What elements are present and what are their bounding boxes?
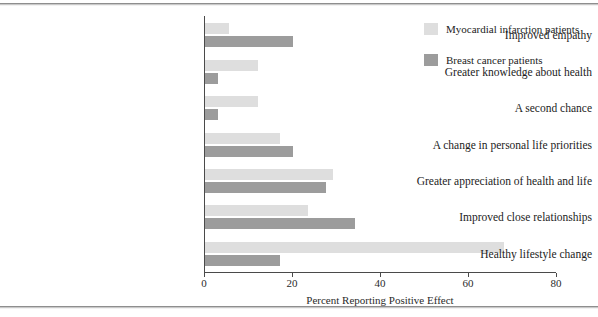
legend-swatch-icon-light (424, 23, 438, 35)
legend-label-breast-cancer: Breast cancer patients (446, 54, 543, 66)
bar-myocardial-3 (205, 133, 280, 144)
bar-breast-cancer-1 (205, 73, 218, 84)
x-tick-label-20: 20 (287, 277, 298, 289)
chart-figure: Improved empathyGreater knowledge about … (0, 0, 598, 317)
x-tick-label-80: 80 (551, 277, 562, 289)
y-axis-line (204, 16, 205, 273)
category-label-5: Improved close relationships (406, 211, 598, 223)
category-label-3: A change in personal life priorities (406, 139, 598, 151)
x-tick-label-60: 60 (463, 277, 474, 289)
x-tick-label-0: 0 (201, 277, 207, 289)
category-label-4: Greater appreciation of health and life (406, 175, 598, 187)
bar-myocardial-2 (205, 96, 258, 107)
bar-breast-cancer-4 (205, 182, 326, 193)
bar-myocardial-0 (205, 23, 229, 34)
category-label-2: A second chance (406, 102, 598, 114)
bar-breast-cancer-5 (205, 218, 355, 229)
x-axis-title: Percent Reporting Positive Effect (204, 294, 556, 306)
legend: Myocardial infarction patients Breast ca… (424, 22, 594, 84)
legend-label-myocardial: Myocardial infarction patients (446, 23, 579, 35)
legend-swatch-icon-dark (424, 54, 438, 66)
bar-breast-cancer-0 (205, 36, 293, 47)
bar-myocardial-1 (205, 60, 258, 71)
category-label-6: Healthy lifestyle change (406, 248, 598, 260)
bar-breast-cancer-2 (205, 109, 218, 120)
bar-myocardial-5 (205, 205, 308, 216)
bar-breast-cancer-6 (205, 255, 280, 266)
bar-breast-cancer-3 (205, 146, 293, 157)
legend-item-myocardial: Myocardial infarction patients (424, 22, 594, 36)
bar-myocardial-4 (205, 169, 333, 180)
x-tick-label-40: 40 (375, 277, 386, 289)
category-axis-labels (0, 0, 204, 317)
legend-item-breast-cancer: Breast cancer patients (424, 53, 594, 67)
